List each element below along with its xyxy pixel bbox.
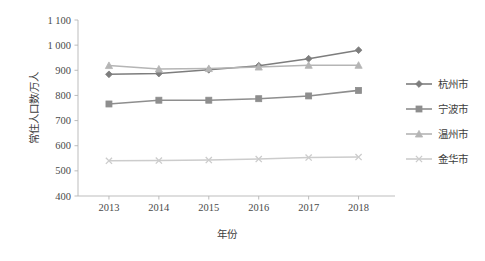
x-tick-label: 2016 [248,202,269,213]
legend-label-0: 杭州市 [438,78,468,90]
x-axis-title: 年份 [217,228,238,240]
data-point-diamond [416,81,423,88]
data-point-square [306,93,312,99]
series-line-1 [109,90,359,104]
series-0 [106,47,362,78]
x-tick-label: 2015 [198,202,219,213]
y-tick-label: 800 [55,90,71,101]
y-tick-label: 1 000 [47,40,71,51]
data-point-square [106,101,112,107]
data-point-square [356,87,362,93]
series-line-0 [109,50,359,74]
legend-label-2: 温州市 [438,128,468,140]
population-line-chart: 4005006007008009001 0001 100201320142015… [0,0,485,261]
x-tick-label: 2017 [298,202,319,213]
chart-canvas: 4005006007008009001 0001 100201320142015… [0,0,485,261]
data-point-square [416,106,422,112]
data-point-diamond [355,47,362,54]
data-point-diamond [106,71,113,78]
y-tick-label: 600 [55,140,71,151]
y-tick-label: 500 [55,165,71,176]
x-tick-label: 2014 [148,202,170,213]
legend-label-1: 宁波市 [438,103,468,115]
series-2 [105,62,362,72]
legend-item-0[interactable]: 杭州市 [406,78,468,90]
x-tick-label: 2013 [98,202,119,213]
series-3 [106,154,362,164]
series-1 [106,87,362,107]
data-point-square [156,97,162,103]
y-tick-label: 700 [55,115,71,126]
legend-item-2[interactable]: 温州市 [406,128,468,140]
series-line-3 [109,157,359,161]
legend-item-3[interactable]: 金华市 [406,153,468,165]
x-tick-label: 2018 [348,202,369,213]
legend-label-3: 金华市 [438,153,468,165]
data-point-square [256,96,262,102]
y-axis-title: 常住人口数/万人 [28,71,40,145]
y-tick-label: 1 100 [47,15,71,26]
y-tick-label: 900 [55,65,71,76]
y-tick-label: 400 [55,191,71,202]
legend-item-1[interactable]: 宁波市 [406,103,468,115]
data-point-square [206,97,212,103]
series-line-2 [109,65,359,69]
